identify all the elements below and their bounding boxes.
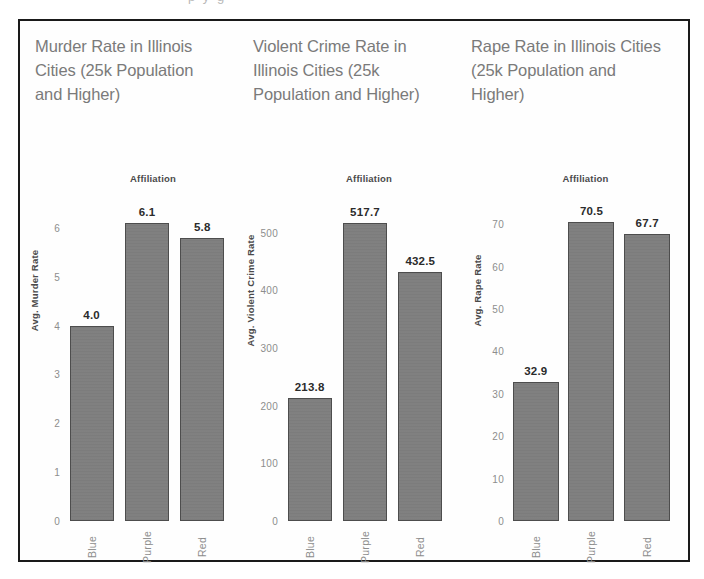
y-tick-label: 0	[498, 516, 504, 527]
scan-top-artifact: p y g	[0, 0, 704, 14]
x-category-label: Red	[196, 537, 208, 557]
x-category-label: Purple	[141, 531, 153, 563]
bar-value-label: 213.8	[295, 381, 325, 393]
y-tick-label: 70	[492, 219, 504, 230]
panel-title: Violent Crime Rate in Illinois Cities (2…	[253, 34, 441, 106]
legend-caption: Affiliation	[238, 173, 478, 184]
y-tick-label: 300	[260, 343, 278, 354]
figure-frame: Murder Rate in Illinois Cities (25k Popu…	[18, 19, 690, 562]
bar-slot: 517.7	[337, 201, 392, 521]
bar-group: 4.06.15.8	[64, 201, 230, 521]
x-category-label: Blue	[304, 536, 316, 558]
y-tick-label: 200	[260, 400, 278, 411]
bar[interactable]: 432.5	[398, 272, 442, 521]
chart-panel-murder-rate: Murder Rate in Illinois Cities (25k Popu…	[20, 21, 238, 560]
x-category-labels: BluePurpleRed	[282, 525, 448, 579]
bar-value-label: 70.5	[580, 205, 603, 217]
bar-group: 213.8517.7432.5	[282, 201, 448, 521]
plot-area: 0100200300400500 213.8517.7432.5	[282, 201, 448, 521]
bar[interactable]: 517.7	[343, 223, 387, 521]
plot-area: 010203040506070 32.970.567.7	[508, 201, 675, 521]
y-tick-label: 4	[54, 320, 60, 331]
chart-panel-violent-crime-rate: Violent Crime Rate in Illinois Cities (2…	[238, 21, 456, 560]
bar-value-label: 67.7	[636, 217, 659, 229]
y-tick-label: 10	[492, 473, 504, 484]
y-tick-labels: 0123456	[24, 201, 60, 521]
x-category-label: Blue	[530, 536, 542, 558]
bar-slot: 432.5	[393, 201, 448, 521]
y-tick-label: 0	[272, 516, 278, 527]
bar[interactable]: 6.1	[125, 223, 169, 521]
bar[interactable]: 70.5	[568, 222, 614, 521]
y-tick-label: 400	[260, 285, 278, 296]
x-category-labels: BluePurpleRed	[64, 525, 230, 579]
bar-value-label: 4.0	[83, 309, 100, 321]
x-category-slot: Purple	[119, 525, 174, 579]
bar-value-label: 6.1	[139, 206, 156, 218]
y-tick-label: 1	[54, 467, 60, 478]
y-tick-label: 500	[260, 227, 278, 238]
panel-title: Murder Rate in Illinois Cities (25k Popu…	[35, 34, 223, 106]
bar-slot: 213.8	[282, 201, 337, 521]
y-tick-label: 20	[492, 431, 504, 442]
x-category-slot: Purple	[564, 525, 620, 579]
y-tick-labels: 010203040506070	[468, 201, 504, 521]
y-tick-label: 30	[492, 388, 504, 399]
x-category-label: Blue	[86, 536, 98, 558]
y-tick-label: 6	[54, 222, 60, 233]
chart-panel-rape-rate: Rape Rate in Illinois Cities (25k Popula…	[456, 21, 687, 560]
y-tick-label: 5	[54, 271, 60, 282]
chart-panel-row: Murder Rate in Illinois Cities (25k Popu…	[20, 21, 688, 560]
y-tick-label: 100	[260, 458, 278, 469]
bar-slot: 6.1	[119, 201, 174, 521]
y-tick-label: 2	[54, 418, 60, 429]
y-tick-label: 3	[54, 369, 60, 380]
x-category-slot: Blue	[508, 525, 564, 579]
x-category-labels: BluePurpleRed	[508, 525, 675, 579]
bar-value-label: 517.7	[350, 206, 380, 218]
y-tick-label: 50	[492, 304, 504, 315]
bar[interactable]: 5.8	[180, 238, 224, 521]
bar[interactable]: 4.0	[70, 326, 114, 521]
x-category-slot: Red	[393, 525, 448, 579]
legend-caption: Affiliation	[20, 173, 262, 184]
y-tick-labels: 0100200300400500	[242, 201, 278, 521]
panel-title: Rape Rate in Illinois Cities (25k Popula…	[471, 34, 671, 106]
scan-ghost-text: p y g	[188, 0, 226, 4]
legend-caption: Affiliation	[456, 173, 701, 184]
bar-value-label: 432.5	[405, 255, 435, 267]
x-category-label: Red	[641, 537, 653, 557]
x-category-slot: Red	[175, 525, 230, 579]
bar-value-label: 5.8	[194, 221, 211, 233]
bar[interactable]: 213.8	[288, 398, 332, 521]
bar-slot: 5.8	[175, 201, 230, 521]
x-category-label: Red	[414, 537, 426, 557]
bar[interactable]: 32.9	[513, 382, 559, 521]
bar-value-label: 32.9	[524, 365, 547, 377]
bar-slot: 67.7	[619, 201, 675, 521]
x-category-slot: Red	[619, 525, 675, 579]
bar-slot: 4.0	[64, 201, 119, 521]
y-tick-label: 60	[492, 261, 504, 272]
x-category-slot: Blue	[282, 525, 337, 579]
bar-slot: 32.9	[508, 201, 564, 521]
plot-area: 0123456 4.06.15.8	[64, 201, 230, 521]
bar-group: 32.970.567.7	[508, 201, 675, 521]
bar-slot: 70.5	[564, 201, 620, 521]
y-tick-label: 0	[54, 516, 60, 527]
x-category-slot: Blue	[64, 525, 119, 579]
x-category-label: Purple	[359, 531, 371, 563]
x-category-label: Purple	[585, 531, 597, 563]
x-category-slot: Purple	[337, 525, 392, 579]
bar[interactable]: 67.7	[624, 234, 670, 521]
y-tick-label: 40	[492, 346, 504, 357]
